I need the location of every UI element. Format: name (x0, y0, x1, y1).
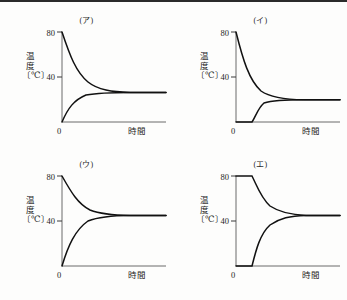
panel-c-curve-warming (62, 215, 166, 266)
panel-c-plot (0, 150, 173, 300)
panel-b-axes (231, 32, 340, 122)
panel-b-curve-cooling (236, 32, 340, 100)
panel-a-curve-cooling (62, 32, 166, 93)
figure-root: (ア) 温 度 〔℃〕 80 40 0 時間 (イ) 温 度 〔℃〕 8 (0, 0, 347, 300)
panel-a: (ア) 温 度 〔℃〕 80 40 0 時間 (0, 6, 173, 156)
panel-c-axes (57, 176, 166, 266)
panel-d-curve-cooling-delayed (236, 176, 340, 215)
panel-a-plot (0, 6, 173, 156)
panel-b: (イ) 温 度 〔℃〕 80 40 0 時間 (174, 6, 347, 156)
panel-b-plot (174, 6, 347, 156)
panel-a-curve-warming (62, 93, 166, 123)
panel-c-curve-cooling (62, 176, 166, 215)
panel-d-axes (231, 176, 340, 266)
panel-d-plot (174, 150, 347, 300)
top-border-rule (0, 0, 347, 2)
panel-b-curve-warming-delayed (236, 100, 340, 122)
panel-d: (エ) 温 度 〔℃〕 80 40 0 時間 (174, 150, 347, 300)
panel-d-curve-warming-delayed (236, 215, 340, 266)
panel-a-axes (57, 32, 166, 122)
panel-c: (ウ) 温 度 〔℃〕 80 40 0 時間 (0, 150, 173, 300)
